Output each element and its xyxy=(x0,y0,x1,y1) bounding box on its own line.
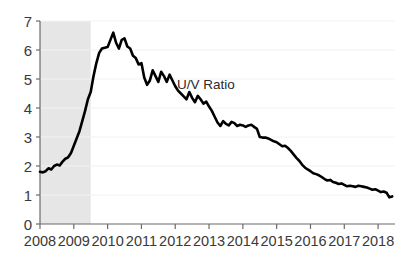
chart-container: 01234567 2008200920102011201220132014201… xyxy=(0,0,406,262)
y-tick-label-4: 4 xyxy=(24,100,32,117)
y-tick-label-3: 3 xyxy=(24,129,32,146)
x-tick-label-2008: 2008 xyxy=(24,233,56,249)
y-tick-label-6: 6 xyxy=(24,42,32,59)
x-tick-label-2013: 2013 xyxy=(193,233,225,249)
x-tick-label-2009: 2009 xyxy=(58,233,90,249)
x-tick-label-2018: 2018 xyxy=(362,233,394,249)
y-tick-label-7: 7 xyxy=(24,13,32,30)
y-tick-label-2: 2 xyxy=(24,158,32,175)
uv-ratio-line-chart: 01234567 2008200920102011201220132014201… xyxy=(0,0,406,262)
x-tick-label-2010: 2010 xyxy=(91,233,123,249)
y-tick-label-0: 0 xyxy=(24,216,32,233)
series-annotation-label: U/V Ratio xyxy=(177,77,235,92)
y-tick-label-1: 1 xyxy=(24,187,32,204)
x-tick-label-2016: 2016 xyxy=(294,233,326,249)
x-tick-label-2014: 2014 xyxy=(227,233,259,249)
y-tick-label-5: 5 xyxy=(24,71,32,88)
x-tick-label-2012: 2012 xyxy=(159,233,191,249)
series-annotation-group: U/V Ratio xyxy=(177,77,235,92)
x-tick-label-2017: 2017 xyxy=(328,233,360,249)
x-tick-label-2011: 2011 xyxy=(126,233,157,249)
x-tick-label-2015: 2015 xyxy=(261,233,293,249)
